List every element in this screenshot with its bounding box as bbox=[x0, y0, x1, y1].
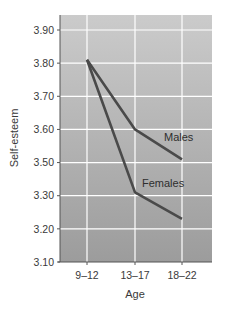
x-axis-title: Age bbox=[125, 288, 145, 300]
x-tick-label: 9–12 bbox=[75, 269, 99, 281]
line-chart: 3.903.803.703.603.503.303.203.10 9–1213–… bbox=[0, 0, 225, 313]
x-tick-label: 13–17 bbox=[120, 269, 149, 281]
y-tick-label: 3.10 bbox=[34, 256, 55, 268]
y-tick-label: 3.80 bbox=[34, 57, 55, 69]
y-axis-ticks: 3.903.803.703.603.503.303.203.10 bbox=[34, 24, 60, 268]
y-tick-label: 3.90 bbox=[34, 24, 55, 36]
y-tick-label: 3.50 bbox=[34, 156, 55, 168]
y-axis-title: Self-esteem bbox=[8, 109, 20, 168]
y-tick-label: 3.20 bbox=[34, 223, 55, 235]
x-tick-label: 18–22 bbox=[167, 269, 196, 281]
y-tick-label: 3.70 bbox=[34, 90, 55, 102]
y-tick-label: 3.30 bbox=[34, 189, 55, 201]
series-label-females: Females bbox=[142, 177, 185, 189]
series-label-males: Males bbox=[164, 131, 194, 143]
x-axis-ticks: 9–1213–1718–22 bbox=[75, 262, 196, 281]
y-tick-label: 3.60 bbox=[34, 123, 55, 135]
